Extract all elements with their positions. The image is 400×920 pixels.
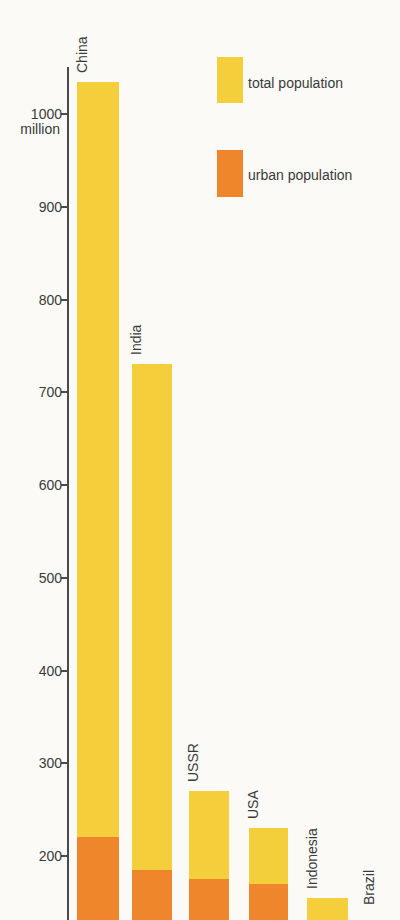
bar-urban-usa xyxy=(249,884,288,920)
country-label-usa: USA xyxy=(245,790,261,819)
bar-urban-india xyxy=(132,870,172,920)
country-label-india: India xyxy=(128,325,144,355)
y-tick-label-400: 400 xyxy=(0,663,62,679)
y-tick-600 xyxy=(61,484,69,486)
country-label-ussr: USSR xyxy=(185,743,201,782)
country-label-china: China xyxy=(74,36,90,73)
bar-total-indonesia xyxy=(307,898,348,920)
y-tick-label-600: 600 xyxy=(0,477,62,493)
y-tick-400 xyxy=(61,670,69,672)
urban-population-label: urban population xyxy=(248,167,352,183)
total-population-swatch xyxy=(217,57,243,103)
y-tick-500 xyxy=(61,577,69,579)
y-tick-label-900: 900 xyxy=(0,199,62,215)
y-tick-800 xyxy=(61,299,69,301)
bar-total-china xyxy=(77,82,119,920)
y-tick-700 xyxy=(61,391,69,393)
country-label-indonesia: Indonesia xyxy=(304,828,320,889)
y-axis-line xyxy=(67,67,69,920)
y-tick-label-700: 700 xyxy=(0,384,62,400)
bar-urban-china xyxy=(77,837,119,920)
y-tick-label-200: 200 xyxy=(0,848,62,864)
y-tick-1000 xyxy=(61,113,69,115)
y-tick-label-800: 800 xyxy=(0,292,62,308)
y-tick-300 xyxy=(61,762,69,764)
urban-population-swatch xyxy=(217,150,243,197)
country-label-brazil: Brazil xyxy=(361,870,377,905)
y-tick-label-500: 500 xyxy=(0,570,62,586)
y-tick-label-1000: 1000 xyxy=(0,106,62,122)
y-tick-900 xyxy=(61,206,69,208)
y-axis-unit-label: million xyxy=(0,121,60,137)
bar-urban-ussr xyxy=(189,879,229,920)
population-bar-chart-figure: 1000900800700600500400300200 million Chi… xyxy=(0,0,400,920)
total-population-label: total population xyxy=(248,75,343,91)
y-tick-200 xyxy=(61,855,69,857)
bar-total-india xyxy=(132,364,172,920)
y-tick-label-300: 300 xyxy=(0,755,62,771)
